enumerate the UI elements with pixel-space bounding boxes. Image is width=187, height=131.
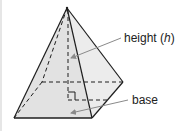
apex-dot (66, 7, 68, 9)
height-label: height (h) (124, 31, 175, 45)
pyramid-svg: height (h) base (0, 0, 187, 131)
pyramid-diagram: height (h) base (0, 0, 187, 131)
base-label: base (132, 93, 158, 107)
